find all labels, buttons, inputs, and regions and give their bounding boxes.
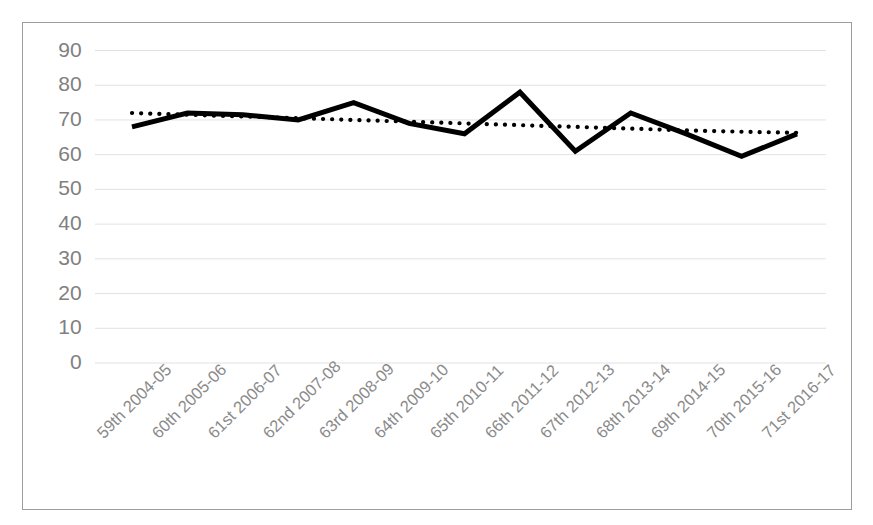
chart-figure: 0102030405060708090 59th 2004-0560th 200…	[0, 0, 873, 525]
x-axis: 59th 2004-0560th 2005-0661st 2006-0762nd…	[0, 0, 873, 525]
x-tick-label: 59th 2004-05	[93, 378, 157, 442]
